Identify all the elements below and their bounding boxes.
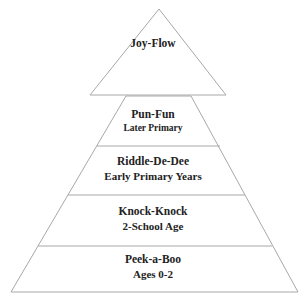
level-4-title: Peek-a-Boo <box>0 253 306 267</box>
level-4-subtitle: Ages 0-2 <box>0 268 306 281</box>
level-3-subtitle: 2-School Age <box>0 220 306 233</box>
level-1-title: Pun-Fun <box>0 108 306 122</box>
level-2-title: Riddle-De-Dee <box>0 155 306 169</box>
level-1-subtitle: Later Primary <box>0 123 306 134</box>
apex-triangle <box>90 9 226 95</box>
level-3-title: Knock-Knock <box>0 205 306 219</box>
level-2-subtitle: Early Primary Years <box>0 170 306 183</box>
apex-label: Joy-Flow <box>0 37 306 51</box>
